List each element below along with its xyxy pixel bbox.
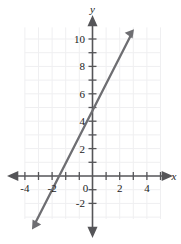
y-axis-label: y xyxy=(89,3,95,15)
graph-screenshot: -4 -2 0 2 4 10 8 6 4 2 -2 x y xyxy=(0,0,181,244)
x-axis-label: x xyxy=(171,170,177,182)
y-tick-label-6: 6 xyxy=(80,88,86,100)
x-tick-label-neg4: -4 xyxy=(20,182,30,194)
coordinate-plane-chart: -4 -2 0 2 4 10 8 6 4 2 -2 x y xyxy=(0,0,181,244)
y-axis-up-arrow xyxy=(89,17,97,26)
x-axis-left-arrow xyxy=(9,172,18,180)
y-tick-label-neg2: -2 xyxy=(76,197,85,209)
y-axis-down-arrow xyxy=(89,228,97,237)
y-tick-label-4: 4 xyxy=(80,115,86,127)
x-tick-label-neg2: -2 xyxy=(48,182,57,194)
x-tick-label-pos4: 4 xyxy=(144,182,150,194)
y-tick-label-2: 2 xyxy=(80,143,86,155)
y-tick-label-8: 8 xyxy=(80,60,86,72)
x-axis-right-arrow xyxy=(163,172,172,180)
x-tick-label-zero: 0 xyxy=(83,182,89,194)
x-tick-label-pos2: 2 xyxy=(117,182,123,194)
y-tick-label-10: 10 xyxy=(74,33,86,45)
